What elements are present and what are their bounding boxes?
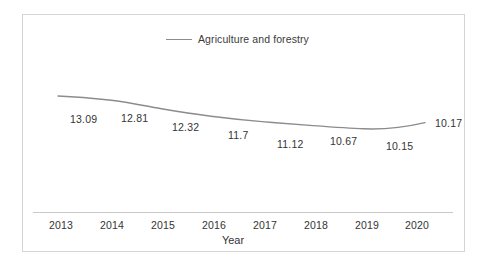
x-axis-title: Year bbox=[186, 234, 280, 246]
x-tick-2015: 2015 bbox=[140, 219, 186, 231]
x-axis-line bbox=[33, 212, 453, 213]
chart-legend: Agriculture and forestry bbox=[166, 31, 309, 47]
legend-line-marker bbox=[166, 39, 192, 40]
x-tick-2019: 2019 bbox=[344, 219, 390, 231]
x-tick-2020: 2020 bbox=[394, 219, 440, 231]
x-tick-2018: 2018 bbox=[293, 219, 339, 231]
x-tick-2013: 2013 bbox=[38, 219, 84, 231]
data-label-2018: 10.67 bbox=[330, 135, 357, 147]
data-label-2016: 11.7 bbox=[228, 129, 248, 141]
chart-figure: Agriculture and forestry 13.09 12.81 12.… bbox=[0, 0, 488, 266]
legend-item-label: Agriculture and forestry bbox=[198, 33, 309, 45]
x-tick-2017: 2017 bbox=[242, 219, 288, 231]
data-label-2015: 12.32 bbox=[172, 121, 199, 133]
data-label-2019: 10.15 bbox=[386, 140, 413, 152]
data-label-2014: 12.81 bbox=[121, 112, 148, 124]
x-tick-2014: 2014 bbox=[89, 219, 135, 231]
data-label-2017: 11.12 bbox=[277, 138, 304, 150]
data-label-2013: 13.09 bbox=[70, 113, 97, 125]
x-tick-2016: 2016 bbox=[191, 219, 237, 231]
data-label-2020: 10.17 bbox=[435, 117, 462, 129]
